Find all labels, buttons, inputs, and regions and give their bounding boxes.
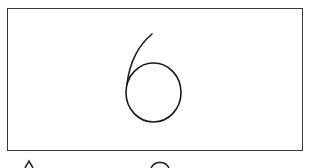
bottom-row-shapes bbox=[0, 0, 312, 168]
circle-icon bbox=[151, 162, 169, 168]
triangle-peak-icon bbox=[25, 161, 33, 168]
